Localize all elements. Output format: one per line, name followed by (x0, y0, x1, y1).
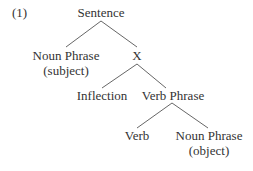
node-verb-phrase: Verb Phrase (142, 89, 204, 103)
edge-sentence-x (101, 21, 137, 47)
edge-x-inflection (102, 64, 137, 88)
node-verb: Verb (125, 129, 150, 143)
node-np-object: Noun Phrase (176, 129, 243, 143)
node-x: X (132, 49, 141, 63)
node-np-object-annotation: (object) (189, 144, 229, 158)
example-number: (1) (12, 6, 27, 20)
edge-vp-verb (137, 103, 172, 128)
edge-sentence-np-subject (66, 21, 101, 47)
edge-x-verb-phrase (137, 64, 166, 88)
node-np-subject-annotation: (subject) (43, 64, 88, 78)
node-inflection: Inflection (77, 89, 128, 103)
node-np-subject: Noun Phrase (33, 49, 100, 63)
edge-vp-np-object (172, 103, 208, 128)
syntax-tree-diagram: (1) Sentence Noun Phrase (subject) X Inf… (0, 0, 253, 171)
node-sentence: Sentence (78, 6, 125, 20)
